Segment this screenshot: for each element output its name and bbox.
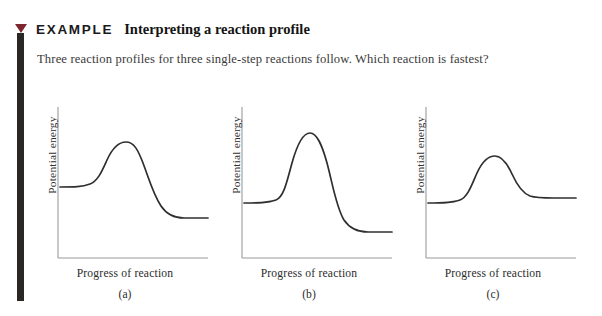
x-axis-label-c: Progress of reaction (410, 267, 576, 280)
curve-b (244, 133, 392, 232)
example-box: EXAMPLEInterpreting a reaction profile T… (0, 0, 602, 316)
plot-svg-c (402, 101, 578, 265)
figure-row: Potential energy Progress of reaction (a… (34, 101, 599, 311)
y-axis-label-c: Potential energy (414, 95, 426, 215)
panel-caption-a: (a) (42, 288, 208, 301)
curve-a (60, 142, 208, 218)
reaction-profile-c: Potential energy Progress of reaction (c… (402, 101, 584, 311)
reaction-profile-a: Potential energy Progress of reaction (a… (34, 101, 216, 311)
reaction-profile-b: Potential energy Progress of reaction (b… (218, 101, 400, 311)
plot-svg-b (218, 101, 394, 265)
triangle-down-icon (15, 24, 27, 33)
y-axis-label-b: Potential energy (230, 95, 242, 215)
plot-svg-a (34, 101, 210, 265)
prompt-text: Three reaction profiles for three single… (37, 52, 489, 67)
x-axis-label-b: Progress of reaction (226, 267, 392, 280)
panel-caption-c: (c) (410, 288, 576, 301)
curve-c (428, 156, 576, 203)
page-title: EXAMPLEInterpreting a reaction profile (36, 20, 310, 38)
example-kicker: EXAMPLE (36, 22, 113, 37)
example-title: Interpreting a reaction profile (124, 21, 310, 37)
x-axis-label-a: Progress of reaction (42, 267, 208, 280)
panel-caption-b: (b) (226, 288, 392, 301)
accent-rail (17, 33, 24, 301)
y-axis-label-a: Potential energy (46, 95, 58, 215)
